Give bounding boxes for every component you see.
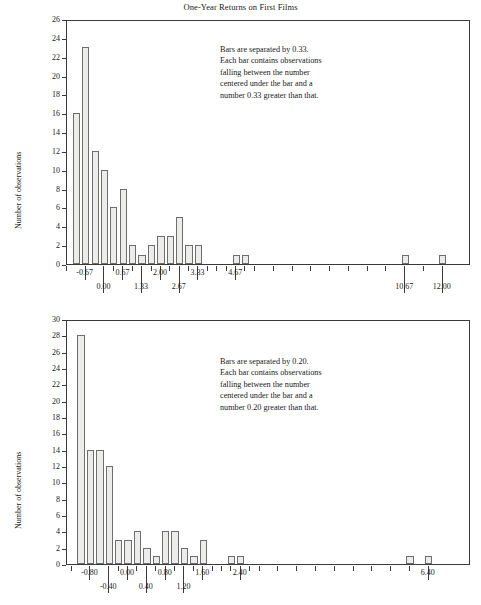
- x-tick-label: 6.40: [409, 568, 447, 577]
- histogram-bar: [157, 236, 164, 264]
- x-tick-label: 12.00: [423, 282, 461, 291]
- y-tick-label: 12: [38, 147, 60, 156]
- y-tick-label: 22: [38, 53, 60, 62]
- y-tick-label: 6: [38, 203, 60, 212]
- y-tick-mark: [62, 77, 66, 78]
- y-tick-label: 0: [38, 560, 60, 569]
- histogram-bar: [143, 548, 150, 564]
- y-tick-mark: [62, 516, 66, 517]
- y-tick-mark: [62, 451, 66, 452]
- histogram-bar: [195, 245, 202, 264]
- y-tick-mark: [62, 500, 66, 501]
- histogram-bar: [138, 255, 145, 264]
- y-tick-mark: [62, 133, 66, 134]
- y-tick-label: 20: [38, 72, 60, 81]
- y-tick-label: 24: [38, 364, 60, 373]
- x-tick-mark-minor: [273, 266, 274, 271]
- x-tick-label: 2.67: [160, 282, 198, 291]
- y-tick-label: 2: [38, 241, 60, 250]
- x-tick-label: 0.00: [84, 282, 122, 291]
- y-tick-mark: [62, 246, 66, 247]
- histogram-bar: [73, 113, 80, 264]
- y-tick-label: 2: [38, 544, 60, 553]
- histogram-bar: [176, 217, 183, 264]
- y-tick-label: 4: [38, 527, 60, 536]
- x-tick-mark-minor: [277, 566, 278, 571]
- chart-panel-bottom: 024681012141618202224262830 -0.80-0.400.…: [0, 314, 481, 605]
- y-axis-title-top: Number of observations: [14, 152, 23, 229]
- histogram-bar: [190, 556, 197, 564]
- x-tick-mark-minor: [296, 566, 297, 571]
- y-tick-label: 16: [38, 109, 60, 118]
- histogram-bar: [87, 450, 94, 564]
- y-tick-mark: [62, 152, 66, 153]
- histogram-bar: [92, 151, 99, 264]
- x-tick-label: 0.67: [103, 268, 141, 277]
- y-tick-label: 8: [38, 495, 60, 504]
- y-tick-mark: [62, 385, 66, 386]
- x-tick-label: -0.40: [89, 582, 127, 591]
- x-tick-mark-minor: [385, 266, 386, 271]
- x-tick-label: 1.60: [183, 568, 221, 577]
- histogram-bar: [425, 556, 432, 564]
- histogram-bar: [77, 335, 84, 564]
- y-tick-mark: [62, 20, 66, 21]
- y-tick-mark: [62, 369, 66, 370]
- histogram-bar: [185, 245, 192, 264]
- x-tick-mark-minor: [367, 266, 368, 271]
- histogram-bar: [228, 556, 235, 564]
- x-tick-mark-minor: [292, 266, 293, 271]
- x-tick-mark-minor: [334, 566, 335, 571]
- y-tick-label: 10: [38, 166, 60, 175]
- x-tick-mark-minor: [371, 566, 372, 571]
- histogram-bar: [96, 450, 103, 564]
- y-tick-label: 6: [38, 511, 60, 520]
- x-tick-label: 2.00: [141, 268, 179, 277]
- y-tick-mark: [62, 95, 66, 96]
- x-tick-mark-minor: [315, 566, 316, 571]
- x-tick-label: 3.33: [178, 268, 216, 277]
- histogram-bar: [237, 556, 244, 564]
- figure-title: One-Year Returns on First Films: [0, 2, 481, 12]
- x-tick-label: 2.40: [221, 568, 259, 577]
- x-tick-label: 0.00: [108, 568, 146, 577]
- histogram-bar: [406, 556, 413, 564]
- histogram-bar: [129, 245, 136, 264]
- y-tick-mark: [62, 320, 66, 321]
- histogram-bar: [124, 540, 131, 565]
- y-tick-label: 24: [38, 34, 60, 43]
- x-tick-label: 4.67: [216, 268, 254, 277]
- y-tick-label: 14: [38, 128, 60, 137]
- histogram-bar: [120, 189, 127, 264]
- x-tick-label: -0.80: [70, 568, 108, 577]
- y-tick-label: 10: [38, 478, 60, 487]
- x-tick-label: 0.40: [127, 582, 165, 591]
- y-tick-mark: [62, 336, 66, 337]
- annotation-text-bottom: Bars are separated by 0.20. Each bar con…: [220, 356, 322, 413]
- y-axis-title-bottom: Number of observations: [14, 452, 23, 529]
- histogram-bar: [162, 531, 169, 564]
- histogram-bar: [110, 207, 117, 264]
- y-tick-label: 0: [38, 260, 60, 269]
- y-tick-label: 26: [38, 15, 60, 24]
- y-tick-mark: [62, 434, 66, 435]
- histogram-bar: [167, 236, 174, 264]
- chart-panel-top: 02468101214161820222426 -0.670.000.671.3…: [0, 14, 481, 304]
- x-tick-mark-minor: [310, 266, 311, 271]
- y-tick-mark: [62, 190, 66, 191]
- y-tick-label: 16: [38, 429, 60, 438]
- y-tick-label: 28: [38, 331, 60, 340]
- y-tick-mark: [62, 114, 66, 115]
- histogram-bar: [181, 548, 188, 564]
- histogram-bar: [101, 170, 108, 264]
- y-tick-mark: [62, 227, 66, 228]
- histogram-bar: [171, 531, 178, 564]
- y-tick-label: 4: [38, 222, 60, 231]
- y-tick-label: 26: [38, 348, 60, 357]
- histogram-bar: [200, 540, 207, 565]
- x-tick-label: 1.33: [122, 282, 160, 291]
- histogram-bar: [153, 556, 160, 564]
- histogram-bar: [134, 531, 141, 564]
- y-tick-mark: [62, 418, 66, 419]
- y-tick-mark: [62, 353, 66, 354]
